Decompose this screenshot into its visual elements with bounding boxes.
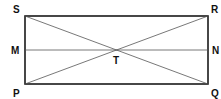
label-n: N: [212, 45, 219, 56]
label-m: M: [11, 45, 19, 56]
rectangle-diagram: S R M N T P Q: [0, 0, 221, 99]
label-p: P: [13, 88, 20, 99]
label-s: S: [13, 4, 20, 15]
label-q: Q: [211, 88, 219, 99]
label-r: R: [211, 4, 219, 15]
label-t: T: [113, 55, 119, 66]
